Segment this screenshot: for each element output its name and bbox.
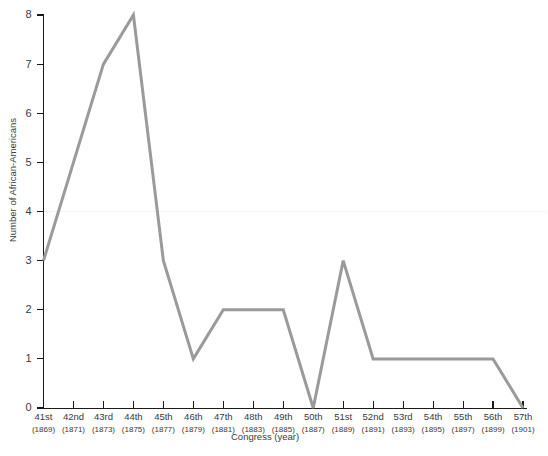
y-tick-label: 6 — [25, 107, 31, 119]
x-tick-sublabel: (1893) — [392, 425, 415, 434]
x-tick-label: 48th — [244, 411, 263, 422]
y-tick-label: 7 — [25, 58, 31, 70]
line-chart: 012345678 Number of African-Americans 41… — [0, 0, 548, 456]
x-tick-label: 44th — [124, 411, 143, 422]
x-tick-label: 45th — [154, 411, 173, 422]
y-tick-label: 8 — [25, 8, 31, 20]
x-tick-label: 42nd — [63, 411, 84, 422]
x-tick-marks — [44, 401, 524, 408]
x-tick-sublabel: (1891) — [362, 425, 385, 434]
x-tick-sublabel: (1873) — [92, 425, 115, 434]
x-tick-sublabel: (1895) — [422, 425, 445, 434]
x-tick-label: 53rd — [394, 411, 413, 422]
x-tick-sublabel: (1897) — [452, 425, 475, 434]
y-tick-label: 5 — [25, 156, 31, 168]
x-tick-sublabel: (1877) — [152, 425, 175, 434]
x-tick-sublabel: (1879) — [182, 425, 205, 434]
x-tick-sublabel: (1871) — [62, 425, 85, 434]
x-axis: 41st(1869)42nd(1871)43rd(1873)44th(1875)… — [32, 401, 535, 442]
x-tick-label: 56th — [484, 411, 503, 422]
x-tick-sublabel: (1901) — [511, 425, 534, 434]
y-tick-label: 4 — [25, 205, 31, 217]
x-tick-label: 54th — [424, 411, 443, 422]
x-tick-label: 43rd — [94, 411, 113, 422]
x-tick-sublabel: (1889) — [332, 425, 355, 434]
x-tick-label: 50th — [304, 411, 323, 422]
y-tick-label: 2 — [25, 303, 31, 315]
y-tick-label: 3 — [25, 254, 31, 266]
x-tick-label: 55th — [454, 411, 473, 422]
x-axis-title: Congress (year) — [231, 431, 299, 442]
x-tick-sublabel: (1875) — [122, 425, 145, 434]
chart-canvas: 012345678 Number of African-Americans 41… — [0, 0, 548, 456]
y-axis-title: Number of African-Americans — [7, 118, 18, 242]
x-tick-label: 49th — [274, 411, 293, 422]
y-tick-labels: 012345678 — [25, 8, 31, 413]
x-tick-label: 51st — [334, 411, 352, 422]
x-tick-label: 47th — [214, 411, 233, 422]
y-tick-marks — [37, 15, 44, 408]
x-tick-label: 57th — [514, 411, 533, 422]
x-tick-label: 46th — [184, 411, 203, 422]
x-tick-label: 52nd — [363, 411, 384, 422]
x-tick-sublabel: (1899) — [481, 425, 504, 434]
x-tick-sublabel: (1869) — [32, 425, 55, 434]
x-tick-label: 41st — [35, 411, 53, 422]
y-tick-label: 1 — [25, 352, 31, 364]
y-axis: 012345678 Number of African-Americans — [7, 8, 44, 413]
x-tick-sublabel: (1887) — [302, 425, 325, 434]
y-tick-label: 0 — [25, 401, 31, 413]
